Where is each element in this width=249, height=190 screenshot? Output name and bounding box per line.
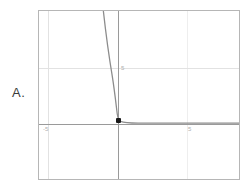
exponential-decay-curve <box>39 11 239 179</box>
plot-frame: 5 -5 5 <box>38 10 240 180</box>
graph-figure: A. 5 -5 5 <box>0 0 249 190</box>
y-intercept-point-marker <box>116 118 121 123</box>
problem-letter-label: A. <box>12 86 25 99</box>
